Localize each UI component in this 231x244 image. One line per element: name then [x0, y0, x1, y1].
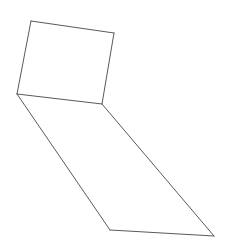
polygon-figure: [0, 0, 231, 244]
canvas-background: [0, 0, 231, 244]
drawing-canvas: [0, 0, 231, 244]
